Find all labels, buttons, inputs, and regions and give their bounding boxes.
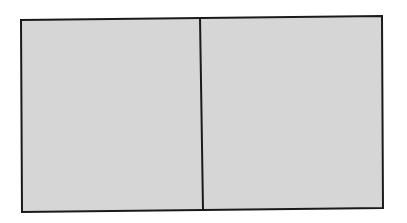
left-panel [21,18,203,212]
diagram-canvas [0,0,407,223]
split-rectangle-diagram [0,0,407,223]
right-panel [200,16,383,210]
